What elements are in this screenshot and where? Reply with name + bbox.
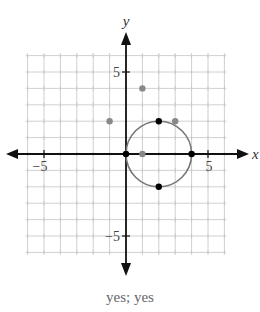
data-point <box>139 151 145 157</box>
data-point <box>139 85 145 91</box>
y-tick-label: −5 <box>105 229 120 244</box>
data-point <box>188 151 194 157</box>
x-tick-label: −5 <box>33 159 48 174</box>
x-axis-label: x <box>251 146 259 162</box>
y-axis-label: y <box>121 13 130 29</box>
y-tick-label: 5 <box>113 65 120 80</box>
data-point <box>156 118 162 124</box>
data-point <box>106 118 112 124</box>
data-point <box>172 118 178 124</box>
x-tick-label: 5 <box>206 159 213 174</box>
data-point <box>123 151 129 157</box>
coordinate-plane: −555−5xy <box>0 0 260 312</box>
y-axis-up-arrow <box>121 32 131 45</box>
x-axis-right-arrow <box>237 149 249 159</box>
data-point <box>156 184 162 190</box>
x-axis-left-arrow <box>6 149 18 159</box>
answer-caption: yes; yes <box>0 289 260 306</box>
y-axis-down-arrow <box>121 263 131 276</box>
